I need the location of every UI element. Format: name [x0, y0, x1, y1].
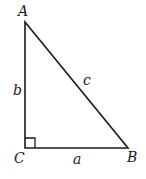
- vertex-label-b: B: [126, 149, 137, 165]
- side-label-c: c: [83, 72, 91, 88]
- right-angle-marker: [25, 138, 35, 148]
- triangle-diagram: A C B b c a: [0, 0, 146, 179]
- vertex-label-a: A: [16, 3, 28, 19]
- vertex-label-c: C: [14, 150, 25, 166]
- side-label-b: b: [13, 82, 22, 98]
- triangle-shape: [25, 22, 128, 148]
- side-label-a: a: [73, 151, 81, 167]
